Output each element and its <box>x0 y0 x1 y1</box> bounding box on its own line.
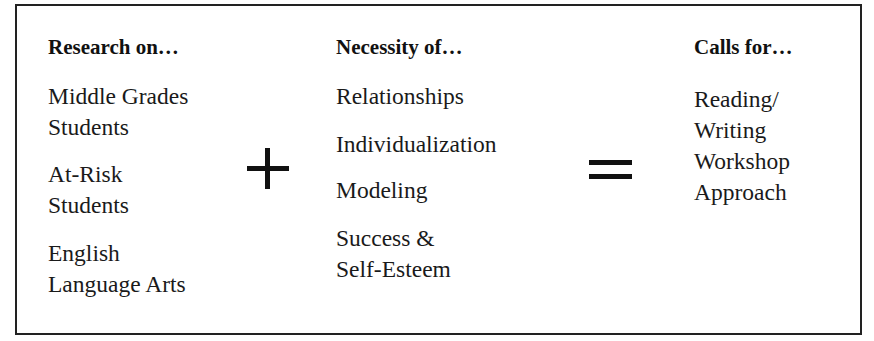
item-line: Reading/ <box>694 84 790 115</box>
item-line: Approach <box>694 177 790 208</box>
item-line: Language Arts <box>48 269 186 300</box>
plus-bar-vertical <box>265 148 270 189</box>
item-line: Students <box>48 190 129 221</box>
equals-icon <box>589 160 632 180</box>
list-item-at-risk: At-Risk Students <box>48 159 129 221</box>
item-line: Relationships <box>336 81 464 112</box>
plus-icon <box>247 148 289 189</box>
equals-bar-top <box>589 160 632 165</box>
item-line: Middle Grades <box>48 81 188 112</box>
list-item-success-self-esteem: Success & Self-Esteem <box>336 223 451 285</box>
list-item-relationships: Relationships <box>336 81 464 112</box>
item-line: Self-Esteem <box>336 254 451 285</box>
item-line: Modeling <box>336 175 427 206</box>
list-item-modeling: Modeling <box>336 175 427 206</box>
list-item-individualization: Individualization <box>336 129 497 160</box>
column-heading-research: Research on… <box>48 37 179 58</box>
item-line: Writing <box>694 115 790 146</box>
item-line: Students <box>48 112 188 143</box>
list-item-middle-grades: Middle Grades Students <box>48 81 188 143</box>
item-line: At-Risk <box>48 159 129 190</box>
item-line: Workshop <box>694 146 790 177</box>
item-line: English <box>48 238 186 269</box>
list-item-workshop-approach: Reading/ Writing Workshop Approach <box>694 84 790 208</box>
column-heading-necessity: Necessity of… <box>336 37 463 58</box>
item-line: Success & <box>336 223 451 254</box>
column-heading-calls-for: Calls for… <box>694 37 793 58</box>
equals-bar-bottom <box>589 174 632 179</box>
item-line: Individualization <box>336 129 497 160</box>
list-item-english-language-arts: English Language Arts <box>48 238 186 300</box>
